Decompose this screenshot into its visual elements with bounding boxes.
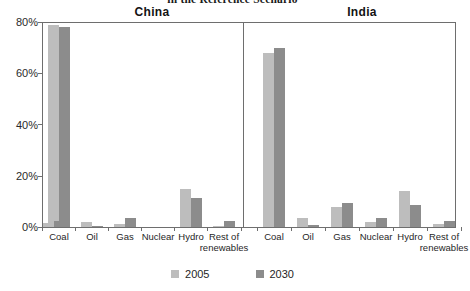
x-tick (257, 227, 258, 231)
x-tick (427, 227, 428, 231)
legend-swatch-2030 (256, 270, 264, 278)
bar-india-oil-2005 (297, 218, 308, 227)
y-axis: 80% 60% 40% 20% 0% (0, 0, 38, 291)
bar-india-coal-2005 (263, 53, 274, 227)
bar-india-nuclear-2030 (376, 218, 387, 227)
bar-china-coal-2005 (48, 25, 59, 227)
y-tick-mark-80 (38, 22, 42, 23)
legend-item-2030[interactable]: 2030 (256, 268, 294, 280)
bar-india-coal-2030 (274, 48, 285, 227)
x-tick (393, 227, 394, 231)
bar-india-rest-of-renewables-2030 (444, 221, 455, 227)
x-tick (174, 227, 175, 231)
y-tick-label-80: 80% (4, 16, 38, 28)
x-tick (461, 227, 462, 231)
bar-china-coal-2030 (59, 27, 70, 227)
bar-india-nuclear-2005 (365, 222, 376, 227)
bar-china-nuclear-2030 (54, 221, 65, 227)
legend-label-2005: 2005 (185, 268, 209, 280)
x-label-rest-of-renewables-china: Rest ofrenewables (198, 232, 250, 253)
x-tick (207, 227, 208, 231)
bar-china-oil-2030 (92, 226, 103, 227)
panel-heading-india: India (322, 5, 402, 19)
x-label-rest-of-renewables-india: Rest ofrenewables (418, 232, 470, 253)
panel-heading-china: China (112, 5, 192, 19)
legend-label-2030: 2030 (270, 268, 294, 280)
legend-swatch-2005 (171, 270, 179, 278)
x-tick (108, 227, 109, 231)
panel-china (43, 22, 243, 227)
x-tick (291, 227, 292, 231)
bar-india-hydro-2030 (410, 205, 421, 227)
bar-india-gas-2005 (331, 207, 342, 228)
legend-item-2005[interactable]: 2005 (171, 268, 209, 280)
bar-china-gas-2005 (114, 224, 125, 227)
x-tick (42, 227, 43, 231)
x-tick (241, 227, 242, 231)
bar-china-hydro-2005 (180, 189, 191, 227)
bar-china-nuclear-2005 (43, 223, 54, 227)
bar-china-oil-2005 (81, 222, 92, 227)
bar-china-hydro-2030 (191, 198, 202, 227)
y-tick-mark-60 (38, 73, 42, 74)
chart-legend: 2005 2030 (0, 268, 465, 280)
y-tick-mark-40 (38, 124, 42, 125)
bar-india-oil-2030 (308, 225, 319, 227)
y-tick-label-40: 40% (4, 119, 38, 131)
bar-india-gas-2030 (342, 203, 353, 227)
bar-china-rest-of-renewables-2030 (224, 221, 235, 227)
x-tick (325, 227, 326, 231)
bar-india-rest-of-renewables-2005 (433, 224, 444, 227)
bar-india-hydro-2005 (399, 191, 410, 227)
y-tick-mark-20 (38, 176, 42, 177)
y-tick-label-20: 20% (4, 170, 38, 182)
bar-china-rest-of-renewables-2005 (213, 226, 224, 227)
x-tick (75, 227, 76, 231)
bar-china-gas-2030 (125, 218, 136, 227)
y-tick-label-60: 60% (4, 67, 38, 79)
panel-india (244, 22, 456, 227)
